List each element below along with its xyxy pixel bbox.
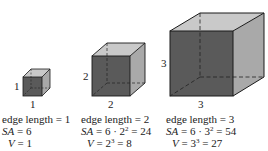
- cube-1-side-label: 1: [14, 81, 20, 92]
- cube-2-volume: V = 23 = 8: [81, 137, 151, 149]
- cube-edge-1: [23, 69, 50, 96]
- cube-3-bottom-label: 3: [198, 99, 204, 110]
- cube-3-side-label: 3: [161, 58, 167, 69]
- cube-edge-3: [170, 13, 264, 96]
- cube-2-caption: edge length = 2 SA = 6 · 22 = 24 V = 23 …: [81, 113, 151, 149]
- cube-3-caption: edge length = 3 SA = 6 · 32 = 54 V = 33 …: [166, 113, 236, 149]
- cube-3-volume: V = 33 = 27: [166, 137, 236, 149]
- cube-1-bottom-label: 1: [30, 99, 36, 110]
- cube-2-side-label: 2: [83, 71, 89, 82]
- cube-1-volume: V = 1: [2, 137, 70, 149]
- cube-1-surface-area: SA = 6: [2, 125, 70, 137]
- cube-3-edge-length: edge length = 3: [166, 113, 236, 125]
- cube-1-edge-length: edge length = 1: [2, 113, 70, 125]
- cube-2-edge-length: edge length = 2: [81, 113, 151, 125]
- cube-2-surface-area: SA = 6 · 22 = 24: [81, 125, 151, 137]
- cube-3-surface-area: SA = 6 · 32 = 54: [166, 125, 236, 137]
- cube-edge-2: [92, 43, 145, 96]
- cube-1-caption: edge length = 1 SA = 6 V = 1: [2, 113, 70, 149]
- cube-2-bottom-label: 2: [108, 99, 114, 110]
